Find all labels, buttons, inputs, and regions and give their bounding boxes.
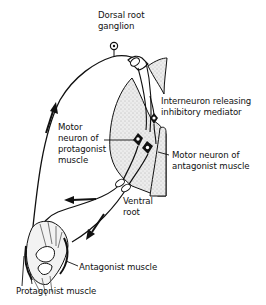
label-interneuron: Interneuron releasing inhibitory mediato…	[161, 96, 251, 118]
label-dorsal-root-ganglion: Dorsal root ganglion	[98, 10, 144, 32]
dorsal-root-ganglion-icon	[110, 42, 117, 56]
arrow-afferent-up-icon	[46, 102, 58, 133]
label-motor-neuron-protagonist: Motor neuron of protagonist muscle	[58, 122, 106, 166]
limb-joint-illustration	[25, 221, 68, 296]
label-antagonist-muscle: Antagonist muscle	[79, 262, 157, 273]
reflex-arc-diagram: Dorsal root ganglion Interneuron releasi…	[0, 0, 266, 305]
arrow-efferent-left-icon	[64, 196, 96, 204]
label-motor-neuron-antagonist: Motor neuron of antagonist muscle	[172, 150, 249, 172]
label-protagonist-muscle: Protagonist muscle	[16, 286, 96, 297]
arrow-efferent-down-left-icon	[86, 214, 104, 240]
spinal-cord-grey-matter	[110, 58, 167, 196]
label-ventral-root: Ventral root	[123, 196, 153, 218]
